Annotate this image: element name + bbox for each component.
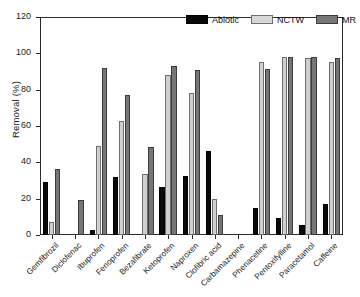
bar-nctw-phenacetine: [259, 62, 264, 235]
y-tick-label: 100: [16, 47, 31, 57]
y-tick-mark: [36, 199, 40, 200]
y-tick-80: 80: [0, 90, 40, 91]
legend-swatch-abiotic: [186, 15, 208, 24]
bar-mr-ibuprofen: [102, 68, 107, 235]
legend-label: NCTW: [277, 15, 304, 25]
y-tick-mark: [36, 17, 40, 18]
y-tick-mark: [36, 53, 40, 54]
y-tick-label: 80: [21, 84, 31, 94]
y-tick-mark: [36, 90, 40, 91]
x-tick-mark: [215, 235, 216, 239]
bar-abiotic-fenoprofen: [113, 177, 118, 235]
bar-mr-gemfibrozil: [55, 169, 60, 235]
x-tick-mark: [238, 235, 239, 239]
y-tick-60: 60: [0, 126, 40, 127]
bar-mr-diclofenac: [78, 200, 83, 235]
y-tick-100: 100: [0, 53, 40, 54]
legend-swatch-mr: [316, 15, 338, 24]
bar-nctw-naproxen: [189, 93, 194, 235]
y-tick-0: 0: [0, 235, 40, 236]
bar-nctw-gemfibrozil: [49, 222, 54, 235]
y-tick-mark: [36, 235, 40, 236]
y-tick-mark: [36, 126, 40, 127]
cropped-caption: [0, 283, 355, 297]
bar-mr-clofibric-acid: [218, 215, 223, 235]
y-tick-40: 40: [0, 162, 40, 163]
legend-label: Abiotic: [212, 15, 239, 25]
y-tick-label: 120: [16, 11, 31, 21]
bar-abiotic-paracetamol: [299, 225, 304, 235]
x-tick-mark: [308, 235, 309, 239]
x-tick-mark: [331, 235, 332, 239]
bar-mr-ketoprofen: [171, 66, 176, 235]
x-tick-mark: [285, 235, 286, 239]
x-tick-mark: [192, 235, 193, 239]
bar-abiotic-gemfibrozil: [43, 182, 48, 235]
bar-abiotic-clofibric-acid: [206, 151, 211, 235]
bar-nctw-fenoprofen: [119, 121, 124, 235]
bar-abiotic-caffeine: [323, 204, 328, 235]
bar-abiotic-pentoxifylline: [276, 218, 281, 235]
bar-mr-caffeine: [335, 58, 340, 235]
bar-mr-bezafibrate: [148, 147, 153, 235]
chart-legend: AbioticNCTWMR: [186, 13, 360, 26]
bar-abiotic-ketoprofen: [159, 187, 164, 235]
legend-item-nctw: NCTW: [251, 15, 304, 25]
y-tick-20: 20: [0, 199, 40, 200]
bar-mr-paracetamol: [311, 57, 316, 235]
x-tick-mark: [261, 235, 262, 239]
x-tick-mark: [122, 235, 123, 239]
y-tick-label: 60: [21, 120, 31, 130]
x-tick-mark: [145, 235, 146, 239]
bar-nctw-paracetamol: [305, 58, 310, 235]
x-tick-mark: [168, 235, 169, 239]
bar-mr-phenacetine: [265, 69, 270, 235]
bar-nctw-caffeine: [329, 62, 334, 235]
bar-nctw-pentoxifylline: [282, 57, 287, 235]
bar-abiotic-ibuprofen: [90, 230, 95, 235]
bar-abiotic-naproxen: [183, 176, 188, 235]
y-tick-label: 40: [21, 156, 31, 166]
bar-nctw-ketoprofen: [165, 75, 170, 235]
bar-nctw-bezafibrate: [142, 174, 147, 235]
x-axis-label-caffeine: Caffeine: [292, 241, 339, 288]
x-tick-mark: [52, 235, 53, 239]
bar-nctw-clofibric-acid: [212, 199, 217, 235]
legend-swatch-nctw: [251, 15, 273, 24]
bar-mr-pentoxifylline: [288, 57, 293, 235]
legend-label: MR: [342, 15, 356, 25]
y-tick-120: 120: [0, 17, 40, 18]
bar-abiotic-phenacetine: [253, 208, 258, 235]
bar-mr-fenoprofen: [125, 95, 130, 235]
bar-nctw-ibuprofen: [96, 146, 101, 235]
y-axis-title: Removal (%): [10, 62, 21, 158]
y-tick-label: 20: [21, 193, 31, 203]
x-tick-mark: [75, 235, 76, 239]
y-tick-mark: [36, 162, 40, 163]
legend-item-abiotic: Abiotic: [186, 15, 239, 25]
legend-item-mr: MR: [316, 15, 356, 25]
y-tick-label: 0: [26, 229, 31, 239]
x-tick-mark: [98, 235, 99, 239]
bar-mr-naproxen: [195, 70, 200, 235]
